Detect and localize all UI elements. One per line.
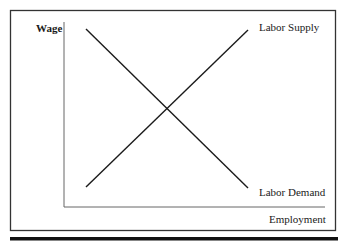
x-axis-label: Employment	[269, 214, 326, 225]
supply-label: Labor Supply	[259, 22, 319, 33]
demand-label: Labor Demand	[259, 187, 325, 198]
y-axis-label: Wage	[36, 23, 62, 34]
diagram-canvas	[0, 0, 344, 244]
bottom-rule	[10, 237, 338, 241]
